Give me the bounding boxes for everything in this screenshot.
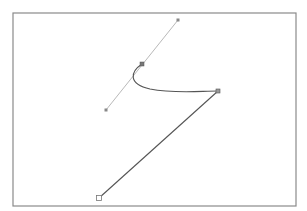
- anchor-point-right[interactable]: [216, 89, 220, 93]
- handle-point-lower[interactable]: [105, 109, 108, 112]
- path-editor-canvas[interactable]: [0, 0, 307, 211]
- artboard-frame: [13, 13, 296, 206]
- anchor-point-bottom[interactable]: [97, 196, 102, 201]
- anchor-point-top[interactable]: [140, 62, 144, 66]
- handle-point-upper[interactable]: [177, 19, 180, 22]
